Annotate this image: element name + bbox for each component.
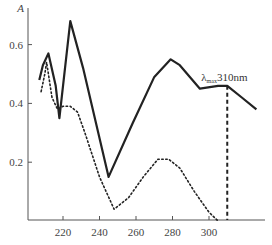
- lambda-max-label: λmax310nm: [201, 71, 248, 84]
- y-tick-label: 0.2: [9, 156, 23, 168]
- y-tick-label: 0.4: [9, 97, 23, 109]
- dotted-curve: [41, 62, 218, 221]
- x-tick-label: 300: [201, 226, 218, 238]
- x-tick-label: 260: [128, 226, 145, 238]
- x-tick-label: 240: [91, 226, 108, 238]
- y-tick-label: 0.6: [9, 39, 23, 51]
- y-axis-title: A: [16, 2, 24, 14]
- x-tick-label: 280: [164, 226, 181, 238]
- uv-spectrum-chart: 220240260280300 0.20.40.6 A λmax310nm: [0, 0, 272, 245]
- axes: 220240260280300 0.20.40.6 A: [9, 2, 265, 238]
- solid-curve: [39, 21, 256, 177]
- x-tick-label: 220: [55, 226, 72, 238]
- series-group: [39, 21, 256, 221]
- lambda-max-annotation: λmax310nm: [201, 71, 248, 220]
